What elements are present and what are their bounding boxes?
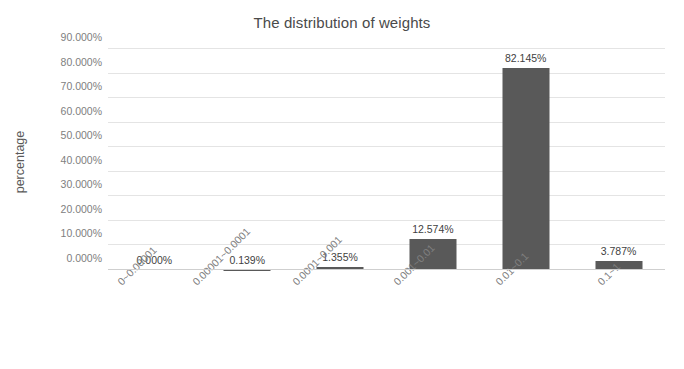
- bar-value-label: 12.574%: [412, 223, 453, 235]
- bar-group: 12.574%0.001~0.01: [387, 49, 480, 270]
- bar-value-label: 0.139%: [229, 254, 265, 266]
- bar-group: 0.139%0.00001~0.0001: [201, 49, 294, 270]
- bar-group: 1.355%0.0001~0.001: [294, 49, 387, 270]
- x-axis-line: [108, 269, 665, 270]
- y-axis-tick-label: 20.000%: [61, 203, 102, 215]
- y-axis-tick-label: 80.000%: [61, 56, 102, 68]
- bar-group: 82.145%0.01~0.1: [479, 49, 572, 270]
- chart-title: The distribution of weights: [0, 14, 684, 31]
- y-axis-title: percentage: [13, 112, 27, 212]
- y-axis-tick-label: 70.000%: [61, 80, 102, 92]
- chart-container: The distribution of weights percentage 0…: [0, 0, 684, 369]
- y-axis-tick-label: 10.000%: [61, 227, 102, 239]
- y-axis-tick-label: 50.000%: [61, 129, 102, 141]
- bar-value-label: 82.145%: [505, 52, 546, 64]
- bar[interactable]: [502, 68, 549, 270]
- bar-group: 3.787%0.1~1: [572, 49, 665, 270]
- bar-value-label: 3.787%: [601, 245, 637, 257]
- y-axis-tick-label: 30.000%: [61, 178, 102, 190]
- y-axis-tick-label: 90.000%: [61, 31, 102, 43]
- bar-group: 0.000%0~0.00001: [108, 49, 201, 270]
- plot-area: 0.000%10.000%20.000%30.000%40.000%50.000…: [108, 49, 665, 270]
- y-axis-tick-label: 40.000%: [61, 154, 102, 166]
- y-axis-tick-label: 0.000%: [66, 252, 102, 264]
- y-axis-tick-label: 60.000%: [61, 105, 102, 117]
